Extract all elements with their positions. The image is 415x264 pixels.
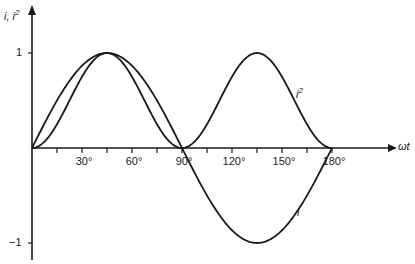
y-tick-label-1: 1 [16,46,22,58]
x-tick-label: 180° [323,155,346,167]
curve-label-i: i [297,206,299,218]
x-tick-label: 30° [76,155,93,167]
y-axis-arrow-icon [28,5,36,15]
y-tick-label-minus-1: −1 [9,236,22,248]
x-tick-label: 120° [223,155,246,167]
x-tick-label: 60° [126,155,143,167]
axes [28,5,397,260]
x-axis-arrow-icon [388,144,397,152]
curve-label-i-squared: i2 [296,86,303,100]
x-tick-label: 150° [273,155,296,167]
chart-canvas [0,0,415,264]
x-axis-label: ωt [398,140,410,152]
series-line-i-squared [32,53,332,148]
x-tick-label: 90° [176,155,193,167]
y-axis-label: i, i2 [4,8,19,22]
